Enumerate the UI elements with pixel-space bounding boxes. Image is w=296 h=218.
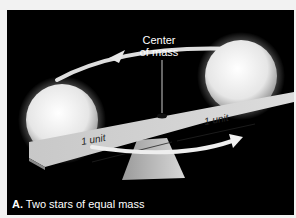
figure-caption: A. Two stars of equal mass	[12, 198, 144, 210]
center-of-mass-label: Center of mass	[134, 34, 184, 58]
pivot-support	[122, 138, 185, 180]
figure-panel: Center of mass 1 unit 1 unit A. Two star…	[7, 10, 294, 215]
center-label-line1: Center	[134, 34, 184, 46]
center-label-line2: of mass	[134, 46, 184, 58]
caption-text: Two stars of equal mass	[26, 198, 145, 210]
caption-label: A.	[12, 198, 23, 210]
center-of-mass-dot	[157, 114, 167, 119]
orbit-arrowhead-lower	[229, 134, 243, 148]
